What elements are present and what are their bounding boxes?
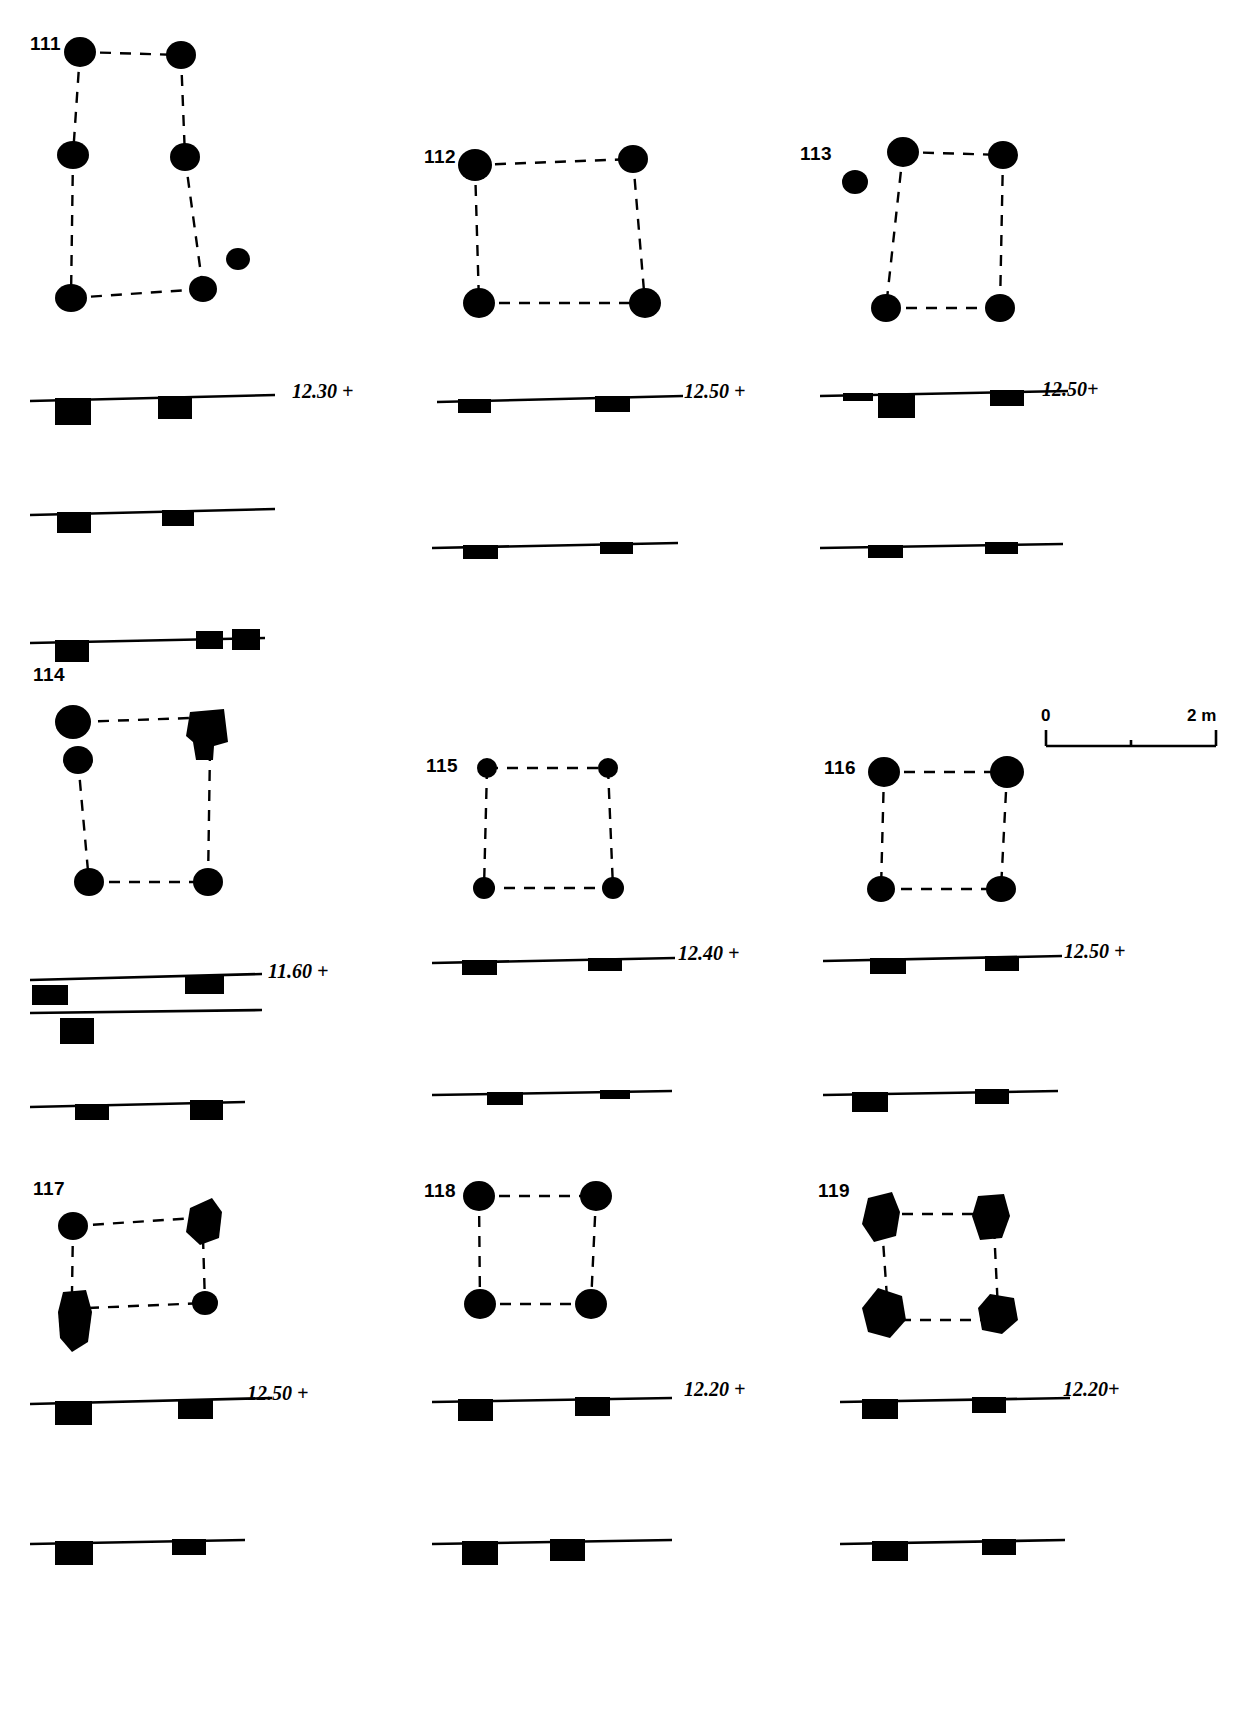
posthole <box>63 746 93 774</box>
plan-119 <box>820 1170 1140 1370</box>
posthole-irregular <box>58 1290 92 1352</box>
posthole-cut <box>463 545 498 559</box>
plan-link <box>78 718 190 722</box>
posthole-cut <box>990 390 1024 406</box>
posthole-cut <box>190 1100 223 1120</box>
ground-line <box>823 956 1062 961</box>
posthole-cut <box>57 512 91 533</box>
posthole-cut <box>462 960 497 975</box>
sections-118 <box>420 1388 750 1588</box>
posthole <box>986 876 1016 902</box>
sections-114 <box>0 950 330 1150</box>
posthole <box>618 145 648 173</box>
plan-link <box>73 1218 195 1226</box>
posthole-cut <box>172 1539 206 1555</box>
sections-119 <box>820 1388 1150 1588</box>
plan-link <box>881 772 884 889</box>
posthole-irregular <box>972 1194 1010 1240</box>
posthole <box>55 284 87 312</box>
posthole <box>602 877 624 899</box>
posthole <box>57 141 89 169</box>
posthole-cut <box>982 1539 1016 1555</box>
plan-113 <box>790 120 1100 350</box>
posthole <box>463 288 495 318</box>
posthole <box>226 248 250 270</box>
posthole-cut <box>196 631 223 649</box>
posthole <box>464 1289 496 1319</box>
posthole <box>575 1289 607 1319</box>
posthole-cut <box>985 542 1018 554</box>
posthole-irregular <box>862 1288 906 1338</box>
posthole-cut <box>862 1399 898 1419</box>
posthole-cut <box>852 1092 888 1112</box>
posthole-cut <box>458 1399 493 1421</box>
plan-111 <box>0 0 330 340</box>
plan-link <box>608 768 613 888</box>
posthole-cut <box>462 1541 498 1565</box>
posthole <box>55 705 91 739</box>
posthole-cut <box>55 640 89 662</box>
posthole <box>170 143 200 171</box>
sections-111 <box>0 370 340 670</box>
sections-116 <box>800 935 1140 1135</box>
ground-line <box>30 974 262 980</box>
archaeological-figure: 111 12.30 + 112 1 <box>0 0 1249 1730</box>
posthole-cut <box>870 958 906 974</box>
posthole <box>580 1181 612 1211</box>
posthole-cut <box>868 545 903 558</box>
posthole-cut <box>55 1541 93 1565</box>
sections-115 <box>420 935 750 1135</box>
ground-line <box>432 1091 672 1095</box>
posthole-cut <box>55 398 91 425</box>
posthole-irregular <box>978 1294 1018 1334</box>
posthole <box>867 876 895 902</box>
posthole-cut <box>550 1539 585 1561</box>
ground-line <box>820 544 1063 548</box>
posthole <box>887 137 919 167</box>
plan-link <box>1000 155 1003 308</box>
posthole-irregular <box>862 1192 900 1242</box>
plan-114 <box>0 690 330 930</box>
plan-link <box>88 1303 205 1308</box>
posthole-cut <box>55 1401 92 1425</box>
posthole <box>74 868 104 896</box>
plan-link <box>475 159 633 165</box>
posthole <box>58 1212 88 1240</box>
posthole-cut <box>185 976 224 994</box>
posthole-cut <box>975 1089 1009 1104</box>
posthole <box>166 41 196 69</box>
posthole-cut <box>985 956 1019 971</box>
posthole <box>842 170 868 194</box>
posthole-irregular <box>186 1198 222 1245</box>
posthole-cut <box>178 1399 213 1419</box>
plan-link <box>73 52 80 155</box>
posthole <box>189 276 217 302</box>
ground-line <box>30 1010 262 1013</box>
plan-link <box>484 768 487 888</box>
plan-link <box>71 289 203 298</box>
posthole <box>985 294 1015 322</box>
posthole-cut <box>588 958 622 971</box>
posthole-cut <box>60 1018 94 1044</box>
posthole-irregular <box>186 709 228 760</box>
scale-end-label: 2 m <box>1187 706 1216 726</box>
posthole-cut <box>487 1092 523 1105</box>
plan-112 <box>400 120 720 350</box>
scale-start-label: 0 <box>1041 706 1050 726</box>
plan-link <box>78 760 89 882</box>
plan-link <box>475 165 479 303</box>
posthole-cut <box>843 393 873 401</box>
posthole <box>473 877 495 899</box>
posthole <box>990 756 1024 788</box>
plan-link <box>479 1196 480 1304</box>
structure-label-114: 114 <box>33 664 65 686</box>
posthole-cut <box>600 542 633 554</box>
posthole <box>988 141 1018 169</box>
posthole <box>598 758 618 778</box>
posthole-cut <box>162 510 194 526</box>
posthole-cut <box>575 1397 610 1416</box>
posthole-cut <box>232 629 260 650</box>
plan-link <box>886 152 903 308</box>
sections-117 <box>0 1390 330 1590</box>
posthole-cut <box>75 1104 109 1120</box>
